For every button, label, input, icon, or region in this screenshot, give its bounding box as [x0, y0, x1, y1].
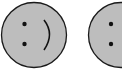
face-right-icon: [89, 3, 123, 68]
eye-icon: [22, 22, 26, 26]
eye-icon: [109, 22, 113, 26]
smiley-face-left-icon: [2, 3, 67, 68]
faces-canvas: [0, 0, 122, 83]
eye-icon: [109, 42, 113, 46]
eye-icon: [22, 42, 26, 46]
